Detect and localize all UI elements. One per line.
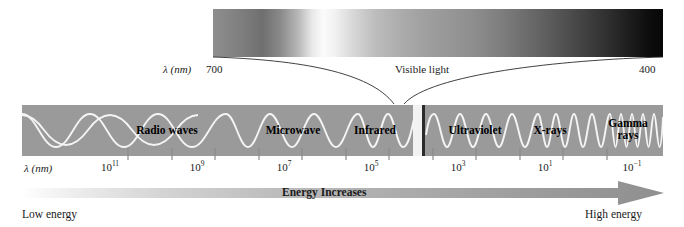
tick-label-1e9: 109 bbox=[190, 161, 205, 173]
visible-right-wavelength: 400 bbox=[639, 63, 656, 76]
band-text-infrared: Infrared bbox=[354, 124, 396, 136]
visible-lambda-label: λ (nm) bbox=[163, 63, 191, 76]
low-energy-caption: Low energy bbox=[22, 208, 77, 220]
high-energy-caption: High energy bbox=[585, 208, 642, 220]
em-spectrum-figure: λ (nm) 700 Visible light 400 bbox=[0, 0, 684, 227]
spectrum-lambda-label: λ (nm) bbox=[24, 162, 52, 174]
band-text-microwave: Microwave bbox=[266, 124, 321, 136]
band-text-xrays: X-rays bbox=[533, 124, 566, 136]
visible-light-caption: Visible light bbox=[395, 63, 449, 76]
tick-label-1e11: 1011 bbox=[101, 161, 119, 173]
energy-arrow-label: Energy Increases bbox=[282, 186, 366, 198]
tick-label-1e-1: 10−1 bbox=[623, 161, 642, 173]
band-text-gamma: Gamma bbox=[608, 117, 648, 129]
band-label-xrays: X-rays bbox=[510, 124, 590, 136]
visible-left-wavelength: 700 bbox=[206, 63, 223, 76]
visible-lambda-text: λ (nm) bbox=[163, 63, 191, 75]
tick-label-1e5: 105 bbox=[364, 161, 379, 173]
spectrum-lambda-text: λ (nm) bbox=[24, 162, 52, 174]
band-label-infrared: Infrared bbox=[330, 124, 420, 136]
band-label-gamma-rays: Gamma rays bbox=[595, 117, 661, 141]
visible-light-gradient-bar bbox=[213, 9, 663, 57]
band-text-radio-waves: Radio waves bbox=[136, 124, 198, 136]
tick-label-1e1: 101 bbox=[538, 161, 553, 173]
tick-label-1e7: 107 bbox=[277, 161, 292, 173]
band-text-ultraviolet: Ultraviolet bbox=[448, 124, 501, 136]
band-text-rays: rays bbox=[617, 129, 638, 141]
tick-label-1e3: 103 bbox=[451, 161, 466, 173]
